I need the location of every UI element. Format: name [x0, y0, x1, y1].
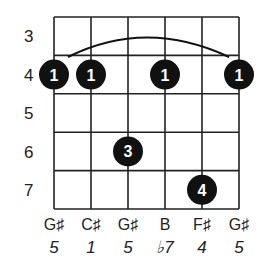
- fret-number: 4: [24, 66, 33, 85]
- note-label: B: [160, 216, 171, 233]
- finger-number: 3: [124, 143, 133, 160]
- chord-diagram: 3 4 5 6 7 111134 G♯ C♯ G♯ B F♯ G♯ 5 1 5 …: [0, 0, 267, 271]
- barre-arc: [68, 38, 229, 58]
- finger-dot: 1: [76, 60, 106, 90]
- fret-number: 3: [24, 27, 33, 46]
- finger-number: 1: [161, 67, 170, 84]
- finger-number: 4: [198, 182, 207, 199]
- interval-labels: 5 1 5 ♭7 4 5: [49, 238, 244, 257]
- interval-label: 4: [197, 238, 206, 257]
- note-label: G♯: [229, 216, 249, 233]
- finger-number: 1: [50, 67, 59, 84]
- finger-dot: 1: [39, 60, 69, 90]
- interval-label: 1: [86, 238, 95, 257]
- fret-number: 7: [24, 181, 33, 200]
- fret-number: 5: [24, 104, 33, 123]
- interval-label: 5: [123, 238, 133, 257]
- note-label: F♯: [193, 216, 211, 233]
- finger-dot: 1: [150, 60, 180, 90]
- interval-label: 5: [49, 238, 59, 257]
- note-label: C♯: [81, 216, 101, 233]
- note-label: G♯: [44, 216, 64, 233]
- finger-dot: 1: [224, 60, 254, 90]
- finger-number: 1: [235, 67, 244, 84]
- finger-dot: 3: [113, 136, 143, 166]
- fret-numbers: 3 4 5 6 7: [24, 27, 33, 200]
- fret-number: 6: [24, 143, 33, 162]
- finger-dot: 4: [187, 175, 217, 205]
- note-label: G♯: [118, 216, 138, 233]
- interval-label: 5: [234, 238, 244, 257]
- finger-number: 1: [87, 67, 96, 84]
- note-names: G♯ C♯ G♯ B F♯ G♯: [44, 216, 249, 233]
- interval-label: ♭7: [156, 238, 174, 257]
